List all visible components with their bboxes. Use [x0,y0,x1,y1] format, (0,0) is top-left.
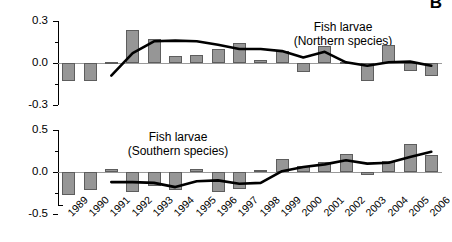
panel-letter-b: B [430,0,442,11]
y-axis-title: Mean Standardized Species Richness [0,0,13,14]
trend-line [58,18,442,110]
x-axis-labels: 1989199019911992199319941995199619971998… [58,208,442,242]
y-axis-tick-label: 0.0 [12,166,48,178]
y-axis-tick-label: 0.0 [12,57,48,69]
y-axis-tick-label: 0.5 [12,124,48,136]
axis-foot-tick [58,205,63,206]
y-axis-tick-label: 0.3 [12,15,48,27]
y-axis-tick-label: -0.3 [12,99,48,111]
chart-northern-species: Fish larvae (Northern species) -0.30.00.… [58,18,442,110]
y-axis-tick-label: -0.5 [12,208,48,220]
